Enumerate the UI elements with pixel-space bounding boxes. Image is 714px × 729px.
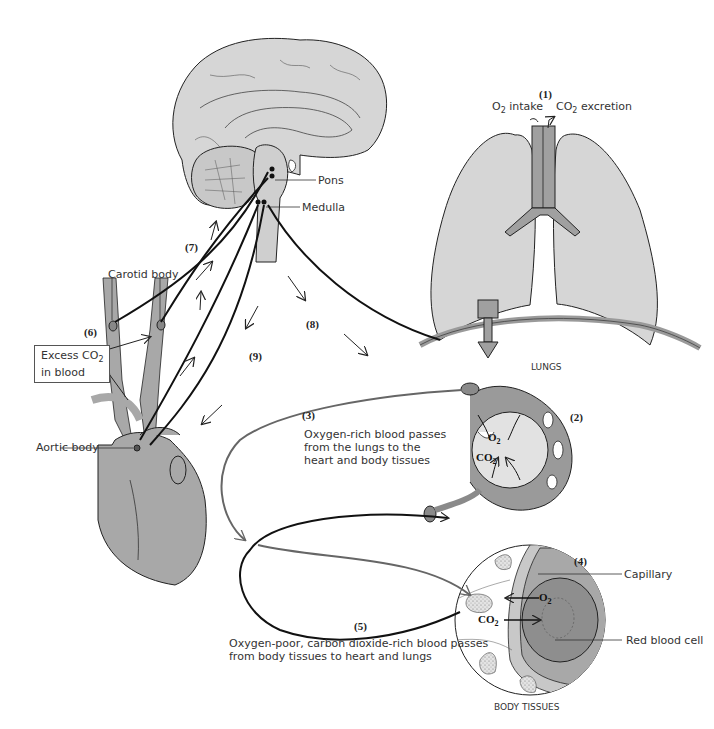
tissue-o2-label: O2 <box>539 591 552 606</box>
step-9-number: (9) <box>249 350 262 362</box>
body-tissues-label: BODY TISSUES <box>494 701 559 714</box>
brain-illustration <box>173 38 387 262</box>
alveolus-o2-label: O2 <box>488 431 501 446</box>
step-6-number: (6) <box>84 326 97 338</box>
alveolus-illustration <box>424 383 572 522</box>
heart-illustration <box>60 278 206 585</box>
lungs-illustration <box>420 117 700 358</box>
tissue-co2-label: CO2 <box>478 613 499 628</box>
co2-excretion-label: CO2 excretion <box>556 100 632 117</box>
oxygen-rich-to-tissues <box>258 545 470 595</box>
alveolus-co2-label: CO2 <box>476 451 497 466</box>
step-3-number: (3) <box>302 409 315 421</box>
medulla-label: Medulla <box>302 201 345 214</box>
step-4-number: (4) <box>574 555 587 567</box>
step-5-number: (5) <box>354 620 367 632</box>
carotid-body-label: Carotid body <box>108 268 179 281</box>
step-2-number: (2) <box>570 411 583 423</box>
red-blood-cell-label: Red blood cell <box>626 634 703 647</box>
step-1-number: (1) <box>539 88 552 100</box>
lungs-label: LUNGS <box>531 361 562 374</box>
step-3-caption: Oxygen-rich blood passes from the lungs … <box>304 428 446 467</box>
oxygen-poor-flow <box>240 515 460 640</box>
o2-intake-label: O2 intake <box>492 100 543 117</box>
step-8-number: (8) <box>306 318 319 330</box>
aortic-body-label: Aortic body <box>36 441 99 454</box>
step-7-number: (7) <box>185 241 198 253</box>
excess-co2-box: Excess CO2 in blood <box>34 345 110 383</box>
pons-label: Pons <box>318 174 344 187</box>
step-5-caption: Oxygen-poor, carbon dioxide-rich blood p… <box>229 637 488 663</box>
capillary-label: Capillary <box>624 568 672 581</box>
